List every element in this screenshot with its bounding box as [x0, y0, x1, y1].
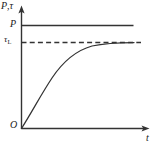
y-axis: [18, 6, 24, 130]
figure-container: P,τ t O P τL: [0, 0, 159, 149]
plot-canvas: [0, 0, 159, 149]
level-label-p: P: [10, 19, 16, 29]
level-label-tau-l: τL: [4, 35, 12, 45]
y-axis-label: P,τ: [1, 1, 13, 11]
origin-label: O: [10, 120, 17, 130]
tau-subscript: L: [8, 38, 12, 45]
x-axis: [22, 125, 150, 131]
tau-symbol: τ: [4, 34, 7, 44]
exponential-rise-curve: [22, 43, 135, 129]
x-axis-label: t: [146, 133, 149, 143]
y-axis-label-tau: τ: [10, 0, 14, 11]
